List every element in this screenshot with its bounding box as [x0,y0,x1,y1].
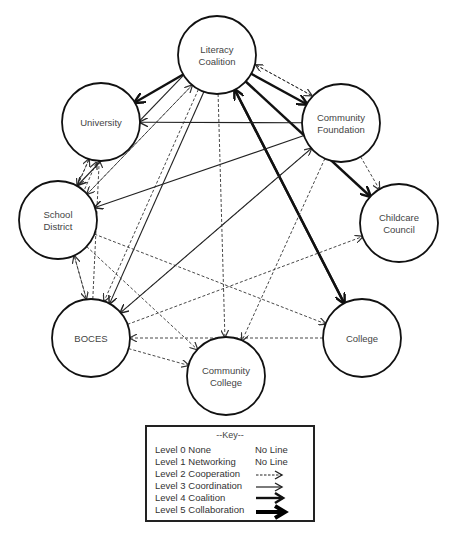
edge-lc-to-uni [135,75,183,103]
node-cf: CommunityFoundation [302,84,380,162]
node-label: District [43,221,72,232]
edge-boces-to-cc [128,237,363,325]
node-cc: ChildcareCouncil [360,184,438,262]
node-ccol: CommunityCollege [187,337,265,415]
node-label: Community [202,365,250,376]
node-uni: University [62,83,140,161]
edge-uni-to-sd [77,159,89,186]
edge-boces-to-ccol [129,349,189,366]
edge-cf-to-cc [361,157,380,190]
node-label: Foundation [317,124,365,135]
node-label: Council [383,224,415,235]
node-label: College [210,377,242,388]
node-label: College [346,333,378,344]
legend-label-level-1: Level 1 Networking [155,456,236,467]
dashed-arrow-icon [255,469,285,481]
node-label: BOCES [74,333,107,344]
legend-label-level-2: Level 2 Cooperation [155,468,240,479]
node-boces: BOCES [52,299,130,377]
medium-arrow-icon [255,491,287,505]
edge-boces-to-sd [74,256,86,299]
thick-arrow-icon [255,504,289,520]
legend-key: --Key-- Level 0 None No Line Level 1 Net… [145,425,315,522]
node-label: Community [317,112,365,123]
node-label: Coalition [199,56,236,67]
edge-sd-to-uni [77,159,89,186]
legend-symbol-level-0: No Line [255,444,288,455]
legend-label-level-4: Level 4 Coalition [155,492,225,503]
edge-sd-to-college [94,234,325,324]
legend-title: --Key-- [147,430,313,440]
node-lc: LiteracyCoalition [178,16,256,94]
edge-lc-to-cf [251,74,307,104]
node-college: College [323,299,401,377]
node-label: School [43,209,72,220]
edge-cf-to-uni [140,122,302,123]
node-label: University [80,117,122,128]
legend-label-level-3: Level 3 Coordination [155,480,242,491]
legend-label-level-0: Level 0 None [155,444,211,455]
edge-lc-to-ccol [218,94,225,337]
legend-symbol-level-1: No Line [255,456,288,467]
node-label: Childcare [379,212,419,223]
node-label: Literacy [200,44,234,55]
nodes-layer: LiteracyCoalitionUniversityCommunityFoun… [19,16,438,415]
legend-label-level-5: Level 5 Collaboration [155,504,244,515]
node-sd: SchoolDistrict [19,181,97,259]
